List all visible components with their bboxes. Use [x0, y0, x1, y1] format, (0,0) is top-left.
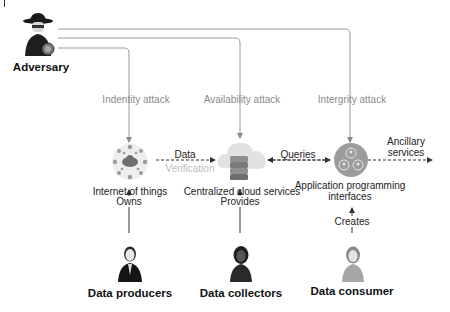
identity-attack-label: Indentity attack — [102, 94, 169, 105]
businessman-icon — [116, 245, 144, 283]
availability-attack-label: Availability attack — [204, 94, 281, 105]
queries-flow-label: Queries — [280, 149, 315, 160]
creates-label: Creates — [333, 216, 370, 227]
api-label-line1: Application programming — [295, 180, 406, 191]
owns-label: Owns — [115, 196, 143, 207]
businesswoman-icon — [228, 245, 254, 283]
adversary-label: Adversary — [13, 61, 69, 73]
data-consumer-label: Data consumer — [310, 285, 393, 297]
api-label-line2: interfaces — [328, 191, 371, 202]
spy-hacker-icon — [22, 12, 58, 62]
data-collectors-label: Data collectors — [200, 287, 282, 299]
cloud-server-icon — [216, 138, 268, 182]
ancillary-label-line1: Ancillary — [387, 136, 425, 147]
iot-network-icon — [111, 143, 149, 181]
verification-flow-label: Verification — [166, 163, 215, 174]
integrity-attack-label: Intergrity attack — [318, 94, 386, 105]
data-producers-label: Data producers — [88, 287, 172, 299]
data-flow-label: Data — [174, 149, 195, 160]
woman-icon — [340, 245, 366, 283]
api-users-icon — [333, 142, 369, 178]
ancillary-label-line2: services — [388, 147, 425, 158]
provides-label: Provides — [220, 196, 261, 207]
